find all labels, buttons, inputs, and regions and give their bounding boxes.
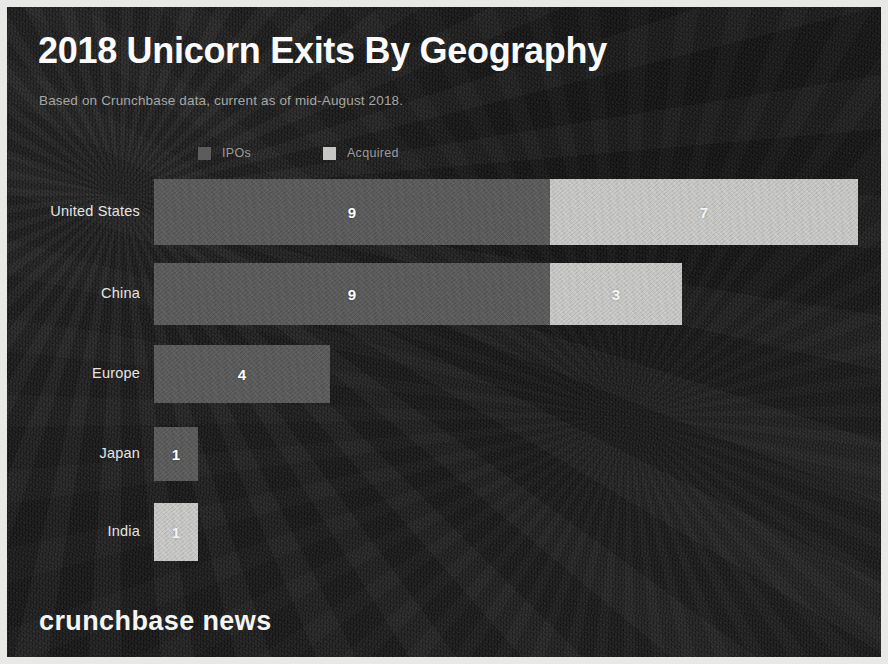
category-label-india: India xyxy=(7,523,140,539)
bar-value-label: 9 xyxy=(348,204,356,221)
bar-segment-acquired[interactable]: 1 xyxy=(154,503,198,561)
chart-row: United States97 xyxy=(7,175,881,255)
bar-value-label: 7 xyxy=(700,204,708,221)
chart-row: India1 xyxy=(7,495,881,575)
legend-label-ipos: IPOs xyxy=(222,146,251,160)
chart-content: 2018 Unicorn Exits By Geography Based on… xyxy=(7,7,881,657)
bar-value-label: 9 xyxy=(348,286,356,303)
legend-swatch-square-icon xyxy=(323,147,336,160)
bar-segment-ipos[interactable]: 9 xyxy=(154,263,550,325)
bar-value-label: 3 xyxy=(612,286,620,303)
category-label-europe: Europe xyxy=(7,365,140,381)
legend-swatch-square-icon xyxy=(198,147,211,160)
bar-chart-plot: United States97China93Europe4Japan1India… xyxy=(7,175,881,575)
bar-track: 93 xyxy=(154,263,682,325)
legend-item-ipos[interactable]: IPOs xyxy=(198,146,251,160)
chart-row: China93 xyxy=(7,255,881,335)
bar-segment-acquired[interactable]: 7 xyxy=(550,179,858,245)
chart-subtitle: Based on Crunchbase data, current as of … xyxy=(39,93,403,108)
bar-value-label: 4 xyxy=(238,366,246,383)
bar-segment-ipos[interactable]: 4 xyxy=(154,345,330,403)
legend-item-acquired[interactable]: Acquired xyxy=(323,146,399,160)
bar-track: 97 xyxy=(154,179,858,245)
bar-track: 1 xyxy=(154,427,198,481)
bar-value-label: 1 xyxy=(172,524,180,541)
brand-wordmark: crunchbase news xyxy=(39,606,272,637)
bar-segment-ipos[interactable]: 1 xyxy=(154,427,198,481)
bar-segment-acquired[interactable]: 3 xyxy=(550,263,682,325)
chart-title: 2018 Unicorn Exits By Geography xyxy=(38,30,607,72)
bar-segment-ipos[interactable]: 9 xyxy=(154,179,550,245)
bar-track: 4 xyxy=(154,345,330,403)
bar-track: 1 xyxy=(154,503,198,561)
chart-legend: IPOs Acquired xyxy=(198,146,399,160)
category-label-united-states: United States xyxy=(7,203,140,219)
chart-frame: 2018 Unicorn Exits By Geography Based on… xyxy=(0,0,888,664)
category-label-japan: Japan xyxy=(7,445,140,461)
bar-value-label: 1 xyxy=(172,446,180,463)
chart-row: Europe4 xyxy=(7,335,881,415)
category-label-china: China xyxy=(7,285,140,301)
legend-label-acquired: Acquired xyxy=(347,146,399,160)
chart-row: Japan1 xyxy=(7,415,881,495)
